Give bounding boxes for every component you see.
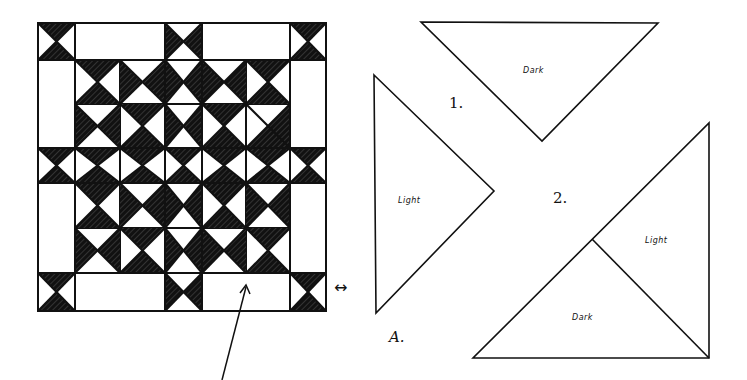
piece-1-number: 1. bbox=[449, 94, 463, 112]
piece-2-dark-label: Dark bbox=[572, 313, 593, 322]
pointer-arrow-icon bbox=[222, 285, 250, 380]
diagram-label: A. bbox=[387, 328, 405, 346]
quilt-diagram: ↔ Dark 1. Light 2. Light Dark A. bbox=[0, 0, 747, 380]
piece-2-light-label: Light bbox=[645, 236, 668, 245]
quilt-block bbox=[38, 23, 326, 311]
piece-1-dark-label: Dark bbox=[523, 66, 544, 75]
piece-1-light-triangle bbox=[374, 75, 494, 313]
piece-1-light-label: Light bbox=[398, 196, 421, 205]
piece-1-dark-triangle bbox=[421, 22, 658, 141]
piece-2-number: 2. bbox=[553, 189, 567, 207]
double-arrow-icon: ↔ bbox=[334, 278, 347, 297]
